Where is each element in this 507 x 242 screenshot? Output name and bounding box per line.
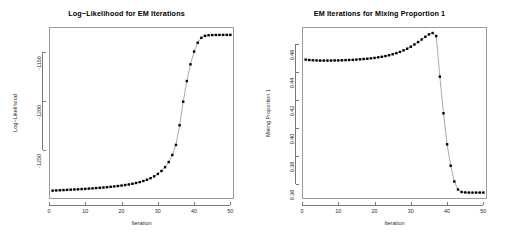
y-tick-label: -1150 xyxy=(37,52,42,74)
x-tick-label: 40 xyxy=(444,209,450,214)
data-point xyxy=(70,188,72,190)
data-point xyxy=(193,50,195,52)
y-tick-label: 0.38 xyxy=(290,156,295,178)
data-point xyxy=(326,59,328,61)
x-tick xyxy=(447,202,448,205)
data-point xyxy=(417,41,419,43)
data-point xyxy=(204,35,206,37)
x-tick xyxy=(375,202,376,205)
data-point xyxy=(413,43,415,45)
y-axis-title-mixing-proportion: Mixing Proportion 1 xyxy=(266,89,272,137)
data-point xyxy=(215,34,217,36)
data-point xyxy=(312,59,314,61)
x-tick xyxy=(49,202,50,205)
data-point xyxy=(131,183,133,185)
data-point xyxy=(468,191,470,193)
data-point xyxy=(446,143,448,145)
data-point xyxy=(66,189,68,191)
data-point xyxy=(211,34,213,36)
data-point xyxy=(406,47,408,49)
x-axis-line-mixing-proportion xyxy=(302,205,483,206)
y-tick xyxy=(296,100,299,101)
data-point xyxy=(391,53,393,55)
data-point xyxy=(91,187,93,189)
y-tick xyxy=(296,184,299,185)
data-point xyxy=(142,180,144,182)
data-point xyxy=(55,189,57,191)
data-point xyxy=(222,34,224,36)
data-point xyxy=(388,54,390,56)
data-point xyxy=(453,180,455,182)
y-tick-label: 0.36 xyxy=(290,184,295,206)
data-point xyxy=(323,59,325,61)
y-tick-label: 0.42 xyxy=(290,100,295,122)
data-point xyxy=(402,49,404,51)
data-point xyxy=(160,170,162,172)
data-point xyxy=(442,112,444,114)
data-point xyxy=(157,173,159,175)
x-tick-label: 30 xyxy=(408,209,414,214)
series-line-log-likelihood xyxy=(53,35,231,191)
data-point xyxy=(366,58,368,60)
data-point xyxy=(175,144,177,146)
data-point xyxy=(88,187,90,189)
x-tick-label: 0 xyxy=(301,209,304,214)
data-point xyxy=(479,191,481,193)
x-tick xyxy=(230,202,231,205)
y-tick-label: 0.40 xyxy=(290,128,295,150)
data-point xyxy=(381,56,383,58)
data-point xyxy=(189,63,191,65)
x-tick-label: 0 xyxy=(48,209,51,214)
x-tick-label: 20 xyxy=(372,209,378,214)
data-point xyxy=(410,46,412,48)
data-point xyxy=(102,186,104,188)
data-point xyxy=(80,188,82,190)
data-point xyxy=(84,188,86,190)
x-tick xyxy=(411,202,412,205)
data-point xyxy=(308,59,310,61)
data-point xyxy=(464,191,466,193)
y-tick xyxy=(43,101,46,102)
data-point xyxy=(428,33,430,35)
data-point xyxy=(421,38,423,40)
data-point xyxy=(229,34,231,36)
x-tick-label: 10 xyxy=(335,209,341,214)
data-point xyxy=(171,154,173,156)
data-point xyxy=(348,59,350,61)
x-tick xyxy=(338,202,339,205)
data-point xyxy=(373,57,375,59)
y-axis-title-log-likelihood: Log−Likelihood xyxy=(13,94,19,132)
x-tick-label: 40 xyxy=(191,209,197,214)
y-tick xyxy=(43,52,46,53)
x-tick-label: 50 xyxy=(480,209,486,214)
data-point xyxy=(435,35,437,37)
x-axis-line-log-likelihood xyxy=(49,205,230,206)
y-tick xyxy=(43,150,46,151)
chart-panel-log-likelihood: Log−Likelihood for EM Iterations 0102030… xyxy=(0,0,253,242)
data-point xyxy=(109,186,111,188)
data-point xyxy=(337,59,339,61)
data-point xyxy=(51,189,53,191)
x-tick xyxy=(85,202,86,205)
x-tick-label: 10 xyxy=(82,209,88,214)
data-point xyxy=(333,59,335,61)
data-point xyxy=(113,185,115,187)
data-point xyxy=(149,177,151,179)
data-point xyxy=(355,58,357,60)
y-tick-label: 0.46 xyxy=(290,44,295,66)
data-point xyxy=(471,191,473,193)
data-point xyxy=(168,161,170,163)
x-tick xyxy=(302,202,303,205)
data-point xyxy=(482,191,484,193)
data-point xyxy=(341,59,343,61)
data-point xyxy=(146,179,148,181)
x-tick-label: 50 xyxy=(227,209,233,214)
data-point xyxy=(117,185,119,187)
data-point xyxy=(319,59,321,61)
x-tick-label: 20 xyxy=(119,209,125,214)
data-point xyxy=(77,188,79,190)
y-tick-label: 0.44 xyxy=(290,72,295,94)
data-point xyxy=(186,80,188,82)
data-point xyxy=(359,58,361,60)
chart-panel-mixing-proportion: EM Iterations for Mixing Proportion 1 01… xyxy=(253,0,506,242)
